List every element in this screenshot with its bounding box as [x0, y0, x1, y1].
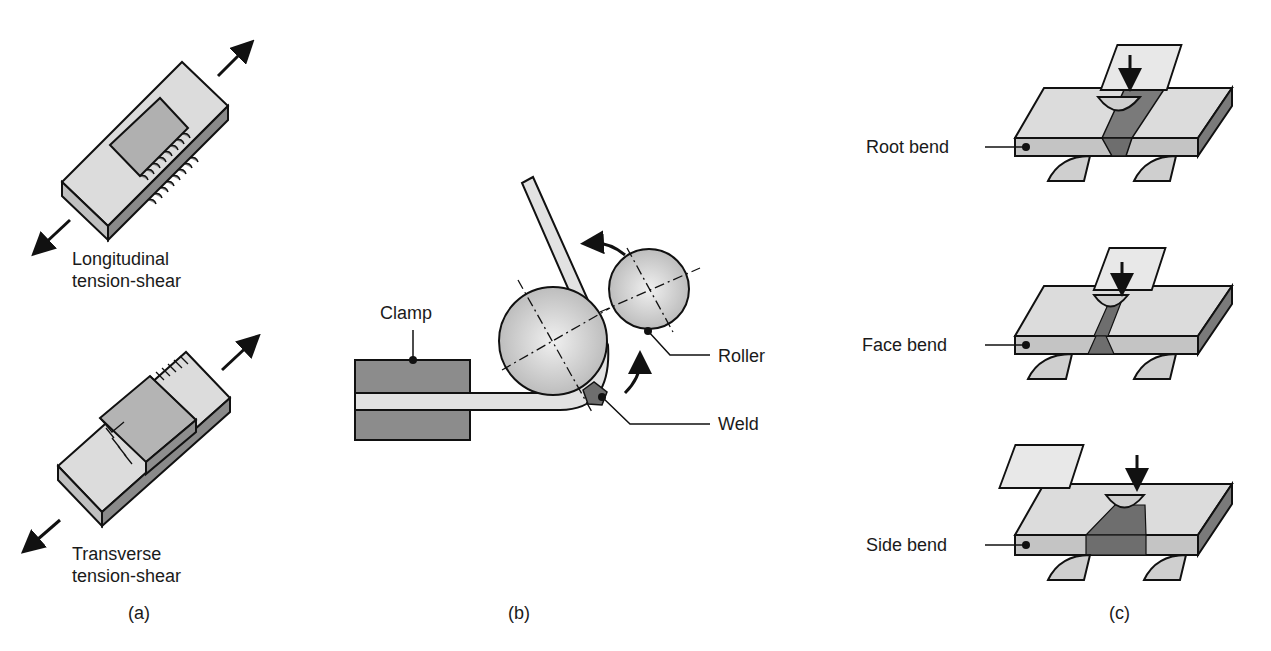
figure-canvas: [0, 0, 1271, 651]
longitudinal-label-line2: tension-shear: [72, 270, 181, 292]
tension-arrow-right: [222, 342, 252, 370]
root-bend-specimen: [985, 45, 1232, 181]
transverse-specimen: [30, 342, 252, 546]
tension-arrow-left: [40, 220, 70, 248]
panel-b-caption: (b): [508, 603, 530, 624]
transverse-label-line1: Transverse: [72, 543, 161, 565]
longitudinal-specimen: [40, 48, 246, 248]
side-bend-specimen: [985, 445, 1232, 580]
weld-label: Weld: [718, 413, 759, 435]
transverse-label-line2: tension-shear: [72, 565, 181, 587]
panel-a-caption: (a): [128, 603, 150, 624]
side-bend-label: Side bend: [866, 534, 947, 556]
mandrel: [499, 287, 607, 395]
clamp-label: Clamp: [380, 302, 432, 324]
tension-arrow-left: [30, 520, 60, 546]
face-bend-specimen: [985, 248, 1232, 379]
roller-label: Roller: [718, 345, 765, 367]
face-bend-label: Face bend: [862, 334, 947, 356]
longitudinal-label-line1: Longitudinal: [72, 248, 169, 270]
tension-arrow-right: [218, 48, 246, 76]
panel-c-caption: (c): [1109, 603, 1130, 624]
root-bend-label: Root bend: [866, 136, 949, 158]
